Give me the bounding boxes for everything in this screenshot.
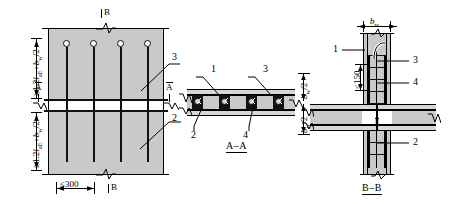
bb-callout-3-leader [377, 58, 410, 64]
bb-slab-flange-bottom [310, 126, 436, 130]
callout-3-label: 3 [172, 52, 177, 62]
section-bb-group: bw ≤150 1 3 4 [310, 0, 449, 205]
bb-slab-break-right [428, 110, 441, 125]
callout-2-label: 2 [172, 113, 177, 123]
section-aa-caption: A–A [226, 140, 247, 153]
aa-callout-3-label: 3 [263, 64, 268, 74]
aa-callout-1-label: 1 [211, 64, 216, 74]
horizontal-rebar-upper [44, 99, 168, 101]
bb-void-right [379, 111, 392, 124]
aa-callout-1-leader [196, 72, 220, 96]
bb-slab-core-left [310, 111, 362, 124]
bb-break-bottom [371, 170, 385, 180]
dimension-upper-text: ≥1.2laE+bw/2 [32, 49, 43, 96]
bb-slab-break-left [302, 105, 314, 130]
rebar-head-2 [90, 40, 97, 47]
callout-3-leader [141, 60, 181, 92]
dimension-lower-text: ≥1.2laE+bw/2 [32, 121, 43, 168]
section-aa-group: 1 3 2 4 bw/2 [185, 0, 310, 205]
aa-callout-4-label: 4 [243, 130, 248, 140]
rebar-head-4 [144, 40, 151, 47]
bb-slab-bottom-outline [310, 130, 436, 131]
bb-void-left [362, 111, 375, 124]
vertical-rebar-2 [93, 47, 95, 162]
bb-callout-3-label: 3 [413, 55, 418, 65]
break-symbol-bottom [96, 168, 116, 180]
horizontal-rebar-lower [44, 110, 168, 112]
section-bb-caption: B–B [362, 182, 382, 195]
bb-stirrup-rung-u2 [368, 67, 385, 68]
aa-callout-3-leader [248, 72, 272, 96]
dimension-spacing-text: ≤300 [60, 180, 78, 189]
rebar-head-3 [117, 40, 124, 47]
bb-slab-rebar-bottom [310, 124, 436, 126]
bb-callout-1-leader [342, 47, 366, 53]
bb-dim-bw-text: bw [370, 17, 379, 28]
vertical-rebar-1 [66, 47, 68, 162]
section-mark-b-bottom-label: B [111, 183, 117, 192]
section-mark-b-top-tick [101, 9, 102, 18]
bb-dim-150-text: ≤150 [353, 71, 362, 89]
bb-callout-2-label: 2 [413, 137, 418, 147]
bb-callout-4-label: 4 [413, 77, 418, 87]
engineering-drawing-canvas: B B A A ≥1.2laE+b [0, 0, 449, 205]
section-mark-b-top-label: B [104, 8, 110, 17]
section-mark-b-bottom-tick [108, 184, 109, 193]
bb-callout-4-leader [377, 80, 410, 86]
bb-dowel-through-joint [376, 104, 378, 130]
bb-stirrup-rung-u4 [368, 91, 385, 92]
elevation-view-group: B B A A ≥1.2laE+b [0, 0, 185, 205]
aa-rebar-hook-4 [274, 96, 284, 109]
aa-rebar-hook-2 [220, 96, 230, 109]
vertical-rebar-3 [120, 47, 122, 162]
bb-callout-2-leader [377, 140, 410, 146]
break-symbol-top [96, 22, 116, 34]
bb-dowel-hook-detail [370, 40, 388, 60]
bb-stirrup-rung-l4 [368, 154, 385, 155]
aa-callout-2-label: 2 [191, 130, 196, 140]
section-mark-a-right-tick [169, 94, 170, 102]
rebar-head-1 [63, 40, 70, 47]
bb-callout-1-label: 1 [333, 44, 338, 54]
